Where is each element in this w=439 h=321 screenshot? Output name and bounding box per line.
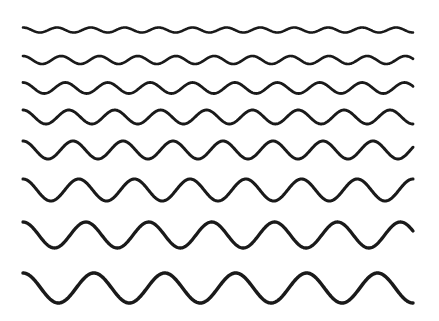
wave-canvas	[0, 0, 439, 321]
wave-diagram	[0, 0, 439, 321]
